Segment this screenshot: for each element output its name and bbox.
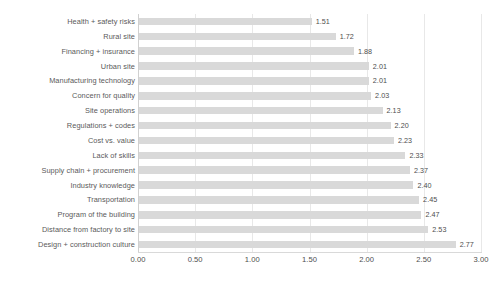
x-tick-label: 1.00	[245, 255, 260, 264]
bar-value-label: 2.77	[460, 240, 474, 249]
bar	[139, 33, 336, 41]
bar-value-label: 2.37	[414, 166, 428, 175]
bar-value-label: 2.45	[423, 195, 437, 204]
bar	[139, 166, 410, 174]
bar-row: Industry knowledge2.40	[0, 178, 504, 193]
category-label: Transportation	[0, 195, 135, 204]
bar-value-label: 1.72	[340, 32, 354, 41]
bar	[139, 77, 369, 85]
bar-value-label: 2.47	[425, 210, 439, 219]
bar-value-label: 2.40	[417, 181, 431, 190]
bar-row: Distance from factory to site2.53	[0, 222, 504, 237]
bar-value-label: 2.13	[387, 106, 401, 115]
bar-row: Manufacturing technology2.01	[0, 74, 504, 89]
bar-value-label: 2.53	[432, 225, 446, 234]
bar-value-label: 2.20	[395, 121, 409, 130]
bar-chart: Health + safety risks1.51Rural site1.72F…	[0, 0, 504, 285]
x-tick-label: 0.00	[131, 255, 146, 264]
bar-row: Concern for quality2.03	[0, 88, 504, 103]
bar-row: Health + safety risks1.51	[0, 14, 504, 29]
x-tick-label: 2.50	[416, 255, 431, 264]
bar-row: Supply chain + procurement2.37	[0, 163, 504, 178]
category-label: Supply chain + procurement	[0, 166, 135, 175]
category-label: Industry knowledge	[0, 181, 135, 190]
bar	[139, 18, 312, 26]
bar-row: Design + construction culture2.77	[0, 237, 504, 252]
bar	[139, 241, 456, 249]
bar	[139, 62, 369, 70]
bar-row: Transportation2.45	[0, 193, 504, 208]
category-label: Urban site	[0, 62, 135, 71]
bar-row: Lack of skills2.33	[0, 148, 504, 163]
category-label: Site operations	[0, 106, 135, 115]
bar	[139, 137, 394, 145]
bar-row: Regulations + codes2.20	[0, 118, 504, 133]
bar-value-label: 2.03	[375, 91, 389, 100]
bar	[139, 211, 421, 219]
bar-value-label: 1.51	[316, 17, 330, 26]
bar	[139, 47, 354, 55]
bar-row: Cost vs. value2.23	[0, 133, 504, 148]
bar-value-label: 2.23	[398, 136, 412, 145]
bar	[139, 181, 413, 189]
category-label: Manufacturing technology	[0, 76, 135, 85]
bar	[139, 152, 405, 160]
bar	[139, 92, 371, 100]
category-label: Health + safety risks	[0, 17, 135, 26]
bar-row: Rural site1.72	[0, 29, 504, 44]
bar-row: Financing + insurance1.88	[0, 44, 504, 59]
x-axis-line	[138, 252, 482, 253]
category-label: Regulations + codes	[0, 121, 135, 130]
bar-rows: Health + safety risks1.51Rural site1.72F…	[0, 14, 504, 252]
bar-value-label: 2.33	[409, 151, 423, 160]
bar-row: Urban site2.01	[0, 59, 504, 74]
bar-row: Site operations2.13	[0, 103, 504, 118]
bar	[139, 226, 428, 234]
category-label: Concern for quality	[0, 91, 135, 100]
category-label: Cost vs. value	[0, 136, 135, 145]
category-label: Distance from factory to site	[0, 225, 135, 234]
bar	[139, 122, 391, 130]
x-tick-label: 2.00	[359, 255, 374, 264]
bar-row: Program of the building2.47	[0, 207, 504, 222]
bar-value-label: 1.88	[358, 47, 372, 56]
category-label: Financing + insurance	[0, 47, 135, 56]
x-axis-tick-labels: 0.000.501.001.502.002.503.00	[0, 255, 504, 269]
category-label: Lack of skills	[0, 151, 135, 160]
category-label: Rural site	[0, 32, 135, 41]
bar-value-label: 2.01	[373, 62, 387, 71]
bar	[139, 196, 419, 204]
x-tick-label: 0.50	[188, 255, 203, 264]
bar-value-label: 2.01	[373, 76, 387, 85]
category-label: Program of the building	[0, 210, 135, 219]
x-tick-label: 3.00	[474, 255, 489, 264]
category-label: Design + construction culture	[0, 240, 135, 249]
bar	[139, 107, 383, 115]
x-tick-label: 1.50	[302, 255, 317, 264]
